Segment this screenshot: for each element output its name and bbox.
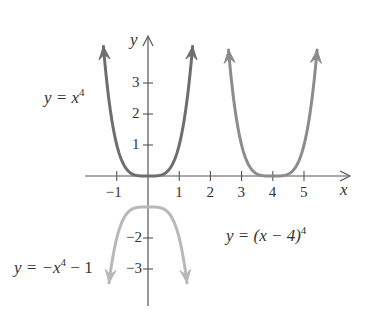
eq3-suffix: − 1: [66, 258, 93, 277]
y-tick-label: −3: [126, 260, 142, 277]
eq3-text: y = −x: [14, 258, 61, 277]
y-tick-label: 3: [132, 74, 140, 91]
x-axis-label: x: [340, 180, 348, 200]
eq1-text: y = x: [44, 88, 79, 107]
x-tick-label: 5: [300, 184, 308, 201]
x-tick-label: 4: [269, 184, 277, 201]
equation-label-x4: y = x4: [44, 88, 85, 108]
eq2-text: y = (x − 4): [226, 226, 301, 245]
equation-label-negative: y = −x4 − 1: [14, 258, 93, 278]
equation-label-shifted: y = (x − 4)4: [226, 226, 306, 246]
eq2-exponent: 4: [301, 224, 307, 236]
y-tick-label: 2: [132, 105, 140, 122]
x-tick-label: −1: [106, 184, 122, 201]
x-tick-label: 2: [206, 184, 214, 201]
y-tick-label: −2: [126, 229, 142, 246]
x-tick-label: 3: [238, 184, 246, 201]
y-tick-label: 1: [132, 136, 140, 153]
x-tick-label: 1: [175, 184, 183, 201]
axes: [85, 36, 350, 306]
y-axis-label: y: [130, 30, 138, 50]
eq1-exponent: 4: [79, 86, 85, 98]
